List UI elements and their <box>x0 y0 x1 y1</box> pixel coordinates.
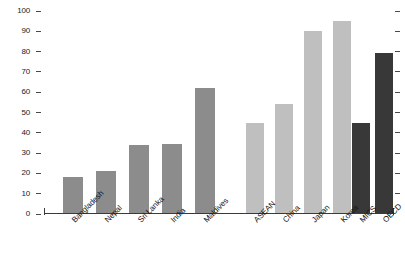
bar-india <box>162 144 182 214</box>
x-axis-labels: BangladeshNepalSri LankaIndiaMaldivesASE… <box>0 214 405 259</box>
bar-oecd <box>375 53 393 214</box>
bar-korea <box>333 21 351 214</box>
bar-asean <box>246 123 264 214</box>
bar-japan <box>304 31 322 214</box>
bar-maldives <box>195 88 215 214</box>
bar-china <box>275 104 293 214</box>
bar-mics <box>352 123 370 214</box>
bars-group <box>0 0 405 214</box>
bar-chart: 0102030405060708090100 BangladeshNepalSr… <box>0 0 405 259</box>
bar-sri-lanka <box>129 145 149 214</box>
